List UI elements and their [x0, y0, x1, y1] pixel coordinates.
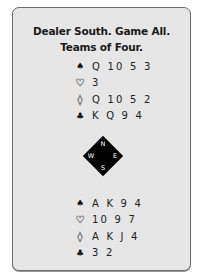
compass-south-label: S	[99, 164, 107, 172]
south-diamonds-row: ◊ A K J 4	[74, 228, 143, 245]
bridge-deal-card: Dealer South. Game All. Teams of Four. ♠…	[12, 7, 191, 271]
heart-icon: ♡	[74, 214, 86, 225]
north-diamonds-row: ◊ Q 10 5 2	[74, 91, 152, 108]
north-hand: ♠ Q 10 5 3 ♡ 3 ◊ Q 10 5 2 ♣ K Q 9 4	[74, 58, 152, 124]
diamond-icon: ◊	[74, 94, 86, 105]
south-hand: ♠ A K 9 4 ♡ 10 9 7 ◊ A K J 4 ♣ 3 2	[74, 195, 143, 261]
south-hearts-row: ♡ 10 9 7	[74, 212, 143, 229]
north-diamonds-cards: Q 10 5 2	[92, 94, 152, 105]
club-icon: ♣	[74, 111, 86, 121]
compass-west-label: W	[87, 152, 95, 160]
heart-icon: ♡	[74, 77, 86, 88]
north-clubs-row: ♣ K Q 9 4	[74, 108, 152, 125]
south-clubs-row: ♣ 3 2	[74, 245, 143, 262]
north-spades-cards: Q 10 5 3	[92, 61, 152, 72]
north-clubs-cards: K Q 9 4	[92, 110, 144, 121]
diamond-icon: ◊	[74, 231, 86, 242]
compass-east-label: E	[111, 152, 119, 160]
south-diamonds-cards: A K J 4	[92, 231, 140, 242]
north-hearts-row: ♡ 3	[74, 75, 152, 92]
compass-diamond: N W E S	[88, 141, 118, 171]
south-spades-row: ♠ A K 9 4	[74, 195, 143, 212]
compass-north-label: N	[99, 140, 107, 148]
club-icon: ♣	[74, 248, 86, 258]
deal-info-dealer-vulnerability: Dealer South. Game All.	[13, 25, 190, 37]
spade-icon: ♠	[74, 198, 86, 208]
spade-icon: ♠	[74, 61, 86, 71]
south-clubs-cards: 3 2	[92, 247, 115, 258]
north-spades-row: ♠ Q 10 5 3	[74, 58, 152, 75]
south-hearts-cards: 10 9 7	[92, 214, 137, 225]
south-spades-cards: A K 9 4	[92, 198, 143, 209]
deal-info-event-type: Teams of Four.	[13, 41, 190, 53]
north-hearts-cards: 3	[92, 77, 101, 88]
